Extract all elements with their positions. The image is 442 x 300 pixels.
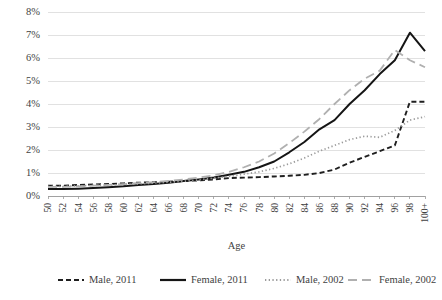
- x-tick-label: 100+: [419, 203, 430, 223]
- x-tick-label: 70: [193, 203, 204, 213]
- x-tick-label: 76: [238, 203, 249, 213]
- x-tick-label: 50: [42, 203, 53, 213]
- x-tick-label: 62: [133, 203, 144, 213]
- legend-label: Male, 2011: [89, 274, 136, 285]
- x-tick-label: 58: [103, 203, 114, 213]
- y-tick-label: 4%: [26, 98, 40, 109]
- x-tick-label: 60: [118, 203, 129, 213]
- chart-legend: Male, 2011Female, 2011Male, 2002Female, …: [58, 274, 436, 285]
- x-tick-label: 54: [73, 203, 84, 213]
- y-tick-label: 5%: [26, 75, 40, 86]
- x-tick-label: 96: [389, 203, 400, 213]
- y-tick-label: 7%: [26, 29, 40, 40]
- y-tick-label: 2%: [26, 144, 40, 155]
- x-tick-label: 98: [404, 203, 415, 213]
- y-tick-label: 6%: [26, 52, 40, 63]
- line-chart: 0%1%2%3%4%5%6%7%8% 505254565860626466687…: [0, 0, 442, 300]
- x-tick-label: 72: [208, 203, 219, 213]
- x-tick-label: 56: [88, 203, 99, 213]
- x-tick-label: 78: [254, 203, 265, 213]
- x-tick-label: 86: [314, 203, 325, 213]
- x-tick-label: 68: [178, 203, 189, 213]
- series-line-female-2011: [48, 33, 425, 189]
- x-tick-label: 90: [344, 203, 355, 213]
- series-line-female-2002: [48, 50, 425, 187]
- data-series-group: [48, 33, 425, 189]
- x-tick-label: 92: [359, 203, 370, 213]
- y-tick-label: 1%: [26, 167, 40, 178]
- y-axis-tick-labels: 0%1%2%3%4%5%6%7%8%: [26, 6, 40, 201]
- x-tick-label: 80: [269, 203, 280, 213]
- y-tick-label: 0%: [26, 190, 40, 201]
- x-tick-label: 82: [284, 203, 295, 213]
- legend-label: Female, 2002: [379, 274, 436, 285]
- x-tick-label: 84: [299, 203, 310, 213]
- chart-svg: 0%1%2%3%4%5%6%7%8% 505254565860626466687…: [0, 0, 442, 300]
- x-tick-label: 64: [148, 203, 159, 213]
- x-tick-label: 94: [374, 203, 385, 213]
- x-tick-label: 66: [163, 203, 174, 213]
- x-axis-tick-labels: 5052545658606264666870727476788082848688…: [42, 203, 430, 223]
- x-tick-label: 74: [223, 203, 234, 213]
- y-tick-label: 8%: [26, 6, 40, 17]
- legend-label: Male, 2002: [296, 274, 344, 285]
- x-tick-label: 88: [329, 203, 340, 213]
- gridlines: [48, 12, 425, 196]
- y-tick-label: 3%: [26, 121, 40, 132]
- x-tick-label: 52: [57, 203, 68, 213]
- legend-label: Female, 2011: [191, 274, 248, 285]
- x-axis-title: Age: [228, 240, 246, 251]
